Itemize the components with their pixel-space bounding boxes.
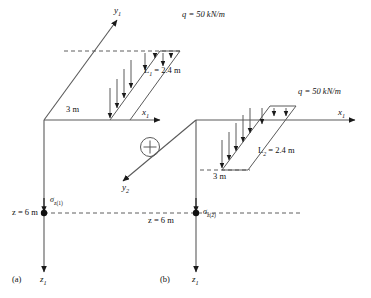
panel-b-axis-y2-label: y2	[122, 183, 129, 194]
panel-b-stress-label: σz(2)	[203, 208, 216, 218]
figure-canvas	[0, 0, 371, 298]
panel-b-length-label: L2 = 2.4 m	[258, 146, 295, 157]
panel-b-axis-x1-label: x1	[338, 108, 345, 119]
panel-b-axis-y2	[123, 120, 196, 181]
panel-b-geometry	[123, 106, 355, 272]
figure-root: y1 x1 z1 3 m q = 50 kN/m L1 = 2.4 m z = …	[0, 0, 371, 298]
panel-a-caption: (a)	[12, 275, 21, 284]
panel-a-axis-y1-label: y1	[114, 6, 121, 17]
panel-a-axis-x1-label: x1	[142, 108, 149, 119]
panel-a-depth-point	[41, 210, 47, 216]
panel-a-axis-y1	[44, 20, 117, 120]
panel-b-caption: (b)	[160, 275, 170, 284]
panel-a-strip-far-edge	[130, 51, 180, 120]
panel-a-stress-label: σz(1)	[50, 196, 63, 206]
panel-b-depth-point	[193, 210, 199, 216]
panel-b-offset-label: 3 m	[213, 172, 226, 181]
panel-a-offset-label: 3 m	[66, 105, 79, 114]
panel-b-depth-label: z = 6 m	[148, 216, 174, 225]
panel-a-depth-label: z = 6 m	[12, 208, 38, 217]
panel-b-strip-far-edge	[248, 106, 296, 170]
plus-operator-symbol	[141, 138, 160, 157]
panel-b-axis-z1-label: z1	[192, 275, 199, 286]
panel-a-load-label: q = 50 kN/m	[182, 10, 225, 19]
panel-a-length-label: L1 = 2.4 m	[144, 66, 181, 77]
panel-b-load-label: q = 50 kN/m	[298, 87, 341, 96]
panel-a-axis-z1-label: z1	[40, 275, 47, 286]
